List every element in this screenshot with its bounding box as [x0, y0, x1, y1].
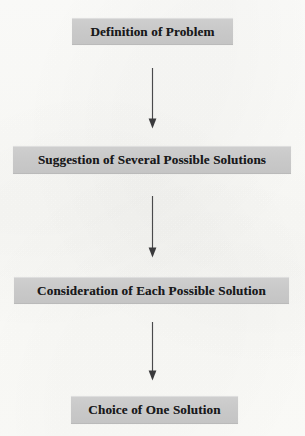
flow-node-label: Suggestion of Several Possible Solutions	[38, 153, 266, 166]
flow-node-suggestion-of-several-possible-solutions: Suggestion of Several Possible Solutions	[13, 146, 291, 174]
flow-node-label: Choice of One Solution	[88, 403, 220, 416]
flow-node-consideration-of-each-possible-solution: Consideration of Each Possible Solution	[14, 277, 289, 304]
flow-node-choice-of-one-solution: Choice of One Solution	[71, 396, 238, 424]
flow-node-label: Consideration of Each Possible Solution	[37, 284, 266, 297]
flow-node-definition-of-problem: Definition of Problem	[72, 18, 233, 45]
down-arrow-icon	[149, 322, 157, 381]
flowchart-connectors	[0, 0, 305, 436]
down-arrow-icon	[149, 68, 157, 129]
down-arrow-icon	[149, 196, 157, 258]
flowchart-diagram: Definition of Problem Suggestion of Seve…	[0, 0, 305, 436]
flow-node-label: Definition of Problem	[90, 25, 214, 38]
